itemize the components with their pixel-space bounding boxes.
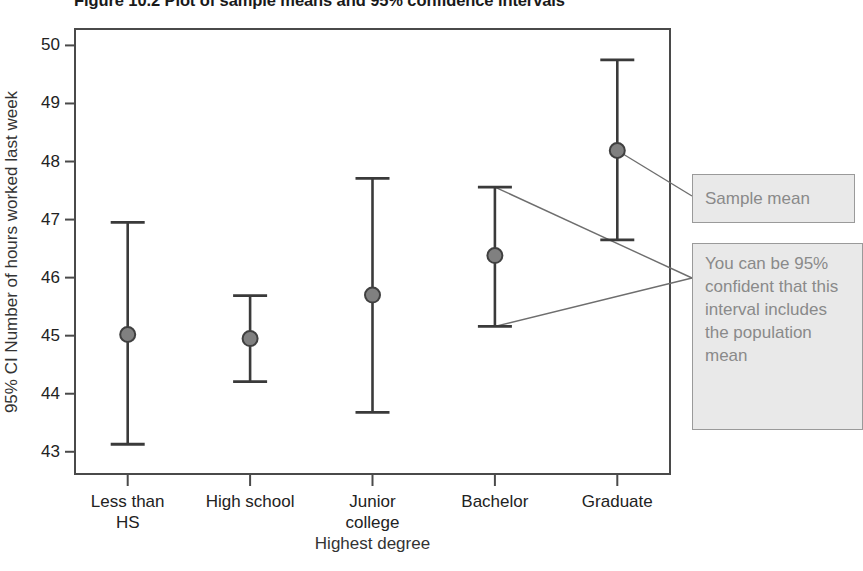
x-axis-ticks	[128, 475, 618, 486]
annotation-sample-mean: Sample mean	[692, 174, 855, 223]
y-axis-ticks	[65, 45, 74, 451]
x-axis-tick-label-line: HS	[72, 512, 184, 533]
y-axis-tick-label: 44	[18, 384, 60, 404]
x-axis-tick-label-line: Junior	[317, 491, 429, 512]
x-axis-tick-label: Juniorcollege	[317, 491, 429, 533]
annotation-ci-explanation-text: You can be 95% confident that this inter…	[705, 254, 838, 365]
x-axis-tick-label: High school	[194, 491, 306, 512]
y-axis-tick-label: 46	[18, 268, 60, 288]
annotation-leader-lines	[495, 150, 692, 326]
error-bars-group	[111, 60, 635, 444]
x-axis-tick-label-line: college	[317, 512, 429, 533]
annotation-sample-mean-text: Sample mean	[705, 187, 810, 210]
x-axis-tick-label-line: Graduate	[561, 491, 673, 512]
y-axis-tick-label: 48	[18, 152, 60, 172]
figure-container: Figure 10.2 Plot of sample means and 95%…	[0, 0, 863, 571]
y-axis-tick-label: 47	[18, 210, 60, 230]
y-axis-tick-label: 45	[18, 326, 60, 346]
x-axis-tick-label: Graduate	[561, 491, 673, 512]
y-axis-tick-label: 49	[18, 93, 60, 113]
y-axis-tick-label: 50	[18, 35, 60, 55]
annotation-ci-explanation: You can be 95% confident that this inter…	[692, 243, 863, 430]
x-axis-tick-label: Less thanHS	[72, 491, 184, 533]
x-axis-tick-label: Bachelor	[439, 491, 551, 512]
x-axis-tick-label-line: Less than	[72, 491, 184, 512]
y-axis-tick-label: 43	[18, 442, 60, 462]
x-axis-tick-label-line: Bachelor	[439, 491, 551, 512]
x-axis-tick-label-line: High school	[194, 491, 306, 512]
